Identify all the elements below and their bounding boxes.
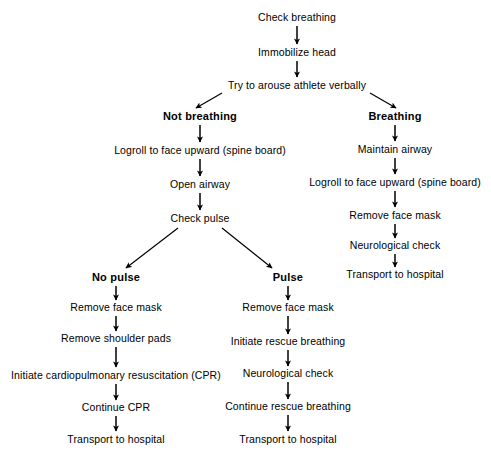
flow-node-try_arouse: Try to arouse athlete verbally xyxy=(228,79,366,91)
flow-node-remove_mask_right: Remove face mask xyxy=(349,209,440,221)
flow-node-continue_rescue: Continue rescue breathing xyxy=(225,400,351,412)
flow-node-transport_right: Transport to hospital xyxy=(346,268,443,280)
flow-node-immobilize_head: Immobilize head xyxy=(258,46,336,58)
flow-node-remove_mask_pulse: Remove face mask xyxy=(242,301,333,313)
flow-edge-check_pulse-to-pulse xyxy=(222,228,272,268)
flow-node-neuro_check_pulse: Neurological check xyxy=(243,367,334,379)
flow-node-initiate_rescue: Initiate rescue breathing xyxy=(231,335,346,347)
flow-node-open_airway: Open airway xyxy=(170,178,230,190)
flow-edge-check_pulse-to-no_pulse xyxy=(126,228,178,268)
flow-node-not_breathing: Not breathing xyxy=(163,110,237,122)
flow-node-remove_pads: Remove shoulder pads xyxy=(61,332,171,344)
flowchart-edges xyxy=(0,0,491,455)
flow-node-pulse: Pulse xyxy=(273,271,303,283)
flow-node-transport_pulse: Transport to hospital xyxy=(239,433,336,445)
flow-node-remove_mask_nopulse: Remove face mask xyxy=(70,301,161,313)
flow-node-neuro_check_right: Neurological check xyxy=(350,239,441,251)
flow-node-breathing: Breathing xyxy=(368,110,421,122)
flow-node-no_pulse: No pulse xyxy=(92,271,140,283)
flow-node-initiate_cpr: Initiate cardiopulmonary resuscitation (… xyxy=(11,369,221,381)
flow-node-logroll_right: Logroll to face upward (spine board) xyxy=(309,176,481,188)
flow-node-check_breathing: Check breathing xyxy=(258,11,336,23)
flow-node-continue_cpr: Continue CPR xyxy=(82,401,150,413)
flow-node-logroll_left: Logroll to face upward (spine board) xyxy=(114,144,286,156)
flow-edge-try_arouse-to-breathing xyxy=(370,93,396,108)
flow-node-check_pulse: Check pulse xyxy=(171,212,230,224)
flow-node-maintain_airway: Maintain airway xyxy=(358,143,432,155)
flowchart-canvas: Check breathingImmobilize headTry to aro… xyxy=(0,0,491,455)
flow-edge-try_arouse-to-not_breathing xyxy=(196,93,222,108)
flow-node-transport_nopulse: Transport to hospital xyxy=(67,433,164,445)
